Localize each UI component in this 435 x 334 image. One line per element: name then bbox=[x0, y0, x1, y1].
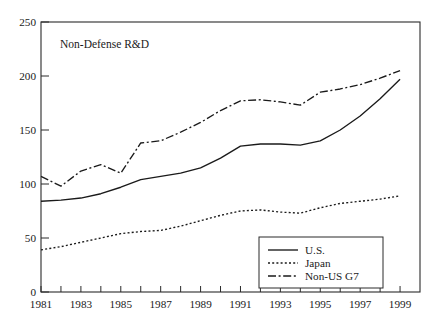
y-tick-label: 200 bbox=[19, 70, 36, 82]
y-tick-group-4: 200 bbox=[19, 70, 49, 82]
series-line-us bbox=[41, 79, 400, 201]
y-tick-group-0: 0 bbox=[30, 286, 49, 298]
x-tick-label: 1983 bbox=[70, 298, 93, 310]
x-tick-label: 1991 bbox=[229, 298, 251, 310]
non-defense-rd-line-chart: 0 50 100 150 200 250 bbox=[0, 0, 435, 334]
x-tick-label: 1989 bbox=[189, 298, 212, 310]
x-tick-label: 1981 bbox=[30, 298, 52, 310]
y-tick-group-2: 100 bbox=[19, 178, 49, 190]
y-tick-group-5: 250 bbox=[19, 16, 49, 28]
y-tick-label: 150 bbox=[19, 124, 36, 136]
x-tick-label: 1987 bbox=[149, 298, 172, 310]
series-line-non-us-g7 bbox=[41, 71, 400, 187]
y-tick-label: 100 bbox=[19, 178, 36, 190]
x-tick-label: 1995 bbox=[309, 298, 332, 310]
y-tick-group-3: 150 bbox=[19, 124, 49, 136]
legend-label: Non-US G7 bbox=[305, 270, 359, 282]
y-tick-label: 250 bbox=[19, 16, 36, 28]
y-tick-group-1: 50 bbox=[25, 232, 49, 244]
x-tick-label: 1985 bbox=[110, 298, 133, 310]
y-tick-label: 50 bbox=[25, 232, 37, 244]
x-tick-label: 1997 bbox=[349, 298, 372, 310]
figure-container: 0 50 100 150 200 250 bbox=[0, 0, 435, 334]
x-tick-label: 1993 bbox=[269, 298, 292, 310]
legend-label: Japan bbox=[305, 257, 331, 269]
legend-label: U.S. bbox=[305, 244, 325, 256]
legend: U.S. Japan Non-US G7 bbox=[259, 237, 383, 288]
y-tick-label: 0 bbox=[30, 286, 36, 298]
x-axis-labels: 1981198319851987198919911993199519971999 bbox=[30, 298, 412, 310]
x-tick-label: 1999 bbox=[389, 298, 412, 310]
plot-title: Non-Defense R&D bbox=[60, 38, 149, 50]
y-axis: 0 50 100 150 200 250 bbox=[19, 16, 49, 298]
